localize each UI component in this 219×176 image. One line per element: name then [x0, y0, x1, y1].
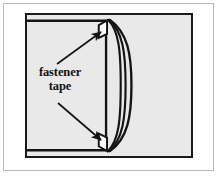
figure-root: fastener tape	[0, 0, 219, 176]
folded-flap-line-inner	[108, 20, 121, 151]
fastener-tape-label-line1: fastener	[39, 65, 81, 79]
lower-fastener-tape	[99, 134, 107, 152]
fastener-tape-label-line2: tape	[26, 80, 94, 94]
fastener-tape-label: fastener tape	[26, 66, 94, 93]
upper-fastener-tape	[99, 20, 107, 38]
